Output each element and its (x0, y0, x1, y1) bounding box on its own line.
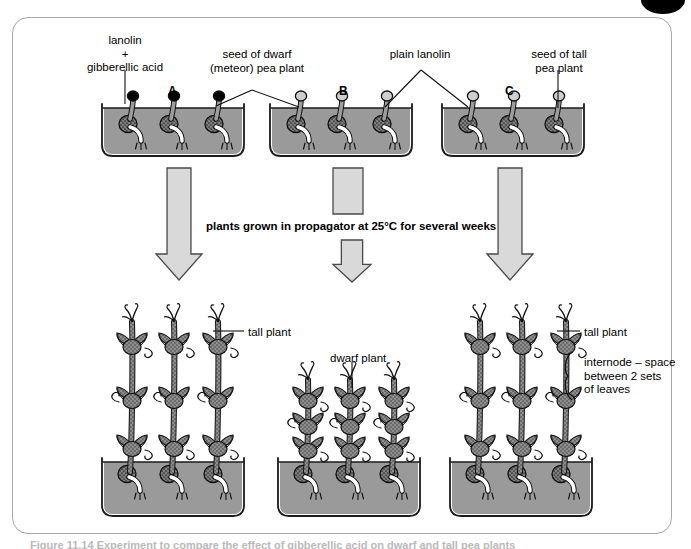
tray-A-contents (102, 91, 244, 156)
result-tray-A-plant-1-apex (122, 304, 138, 322)
result-tray-C-plant-2-tendril-3 (535, 348, 542, 357)
label-seed-of-dwarf-pea-plant: seed of dwarf (meteor) pea plant (196, 48, 318, 75)
tray-A-lanolin-cap-3 (213, 91, 224, 101)
leader-plain-lanolin-right (421, 70, 468, 107)
result-tray-B-plant-3-tendril-3 (407, 402, 414, 411)
result-tray-C-plant-1-apex (470, 304, 486, 322)
label-dwarf-plant: dwarf plant (330, 352, 404, 366)
result-tray-A-plant-3-apex (208, 304, 224, 322)
label-lanolin-gibberellic-acid: lanolin + gibberellic acid (64, 34, 186, 75)
label-internode-definition: internode – space between 2 sets of leav… (584, 356, 684, 397)
result-tray-B-plant-2-tendril-1 (363, 452, 370, 461)
leader-plain-lanolin-left (385, 70, 421, 107)
result-tray-B-plant-1-apex (298, 362, 314, 380)
leader-dwarf-seed-right (252, 90, 299, 107)
result-tray-C-plant-2-apex (512, 304, 528, 322)
result-tray-A-contents (102, 304, 244, 516)
result-tray-A-plant-2-tendril-2 (154, 393, 161, 402)
result-tray-C-plant-3-tendril-1 (579, 450, 586, 459)
tray-B-lanolin-cap-1 (295, 91, 306, 101)
arrow-left (156, 168, 202, 280)
result-tray-C-plant-3-apex (556, 304, 572, 322)
result-tray-A-plant-2-apex (164, 304, 180, 322)
result-tray-A-plant-3-tendril-2 (198, 393, 205, 402)
tray-letter-b: B (339, 84, 348, 98)
result-tray-B-plant-1-tendril-3 (321, 402, 328, 411)
result-tray-B-plant-1-tendril-2 (288, 419, 295, 428)
arrow-middle-upper (333, 168, 363, 214)
arrow-middle-lower (333, 240, 371, 282)
figure-caption: Figure 11.14 Experiment to compare the e… (30, 539, 515, 549)
result-tray-B-contents (278, 362, 420, 516)
label-seed-of-tall-pea-plant: seed of tall pea plant (513, 48, 605, 75)
result-tray-A-plant-2-tendril-3 (187, 348, 194, 357)
growth-conditions-text: plants grown in propagator at 25°C for s… (206, 220, 496, 232)
result-tray-C-plant-1-tendril-1 (493, 450, 500, 459)
result-tray-C-plant-2-tendril-2 (502, 393, 509, 402)
result-tray-A-plant-3-tendril-1 (231, 450, 238, 459)
label-tall-plant-right: tall plant (584, 326, 654, 340)
result-tray-C-plant-3-tendril-2 (546, 393, 553, 402)
result-tray-A-plant-1-tendril-2 (112, 393, 119, 402)
result-tray-B-plant-3-tendril-2 (374, 419, 381, 428)
diagram-artwork (0, 0, 691, 549)
result-tray-B-plant-1-tendril-1 (321, 452, 328, 461)
result-tray-C-plant-1-tendril-2 (460, 393, 467, 402)
result-tray-A-plant-2-tendril-1 (187, 450, 194, 459)
tray-B-lanolin-cap-3 (381, 91, 392, 101)
result-tray-B-plant-3-tendril-1 (407, 452, 414, 461)
result-tray-B-plant-2-tendril-3 (363, 402, 370, 411)
tray-C-contents (442, 91, 584, 156)
result-tray-A-plant-1-tendril-1 (145, 450, 152, 459)
tray-letter-c: C (505, 84, 514, 98)
result-tray-C-plant-1-tendril-3 (493, 348, 500, 357)
result-tray-C-plant-2-tendril-1 (535, 450, 542, 459)
figure-root: lanolin + gibberellic acidseed of dwarf … (0, 0, 691, 549)
label-plain-lanolin: plain lanolin (375, 48, 465, 62)
result-tray-C-contents (450, 304, 592, 516)
tray-C-lanolin-cap-3 (553, 91, 564, 101)
result-tray-B-plant-2-tendril-2 (330, 419, 337, 428)
tray-A-lanolin-cap-1 (127, 91, 138, 101)
label-tall-plant-left: tall plant (248, 326, 318, 340)
tray-letter-a: A (168, 84, 177, 98)
tray-C-lanolin-cap-1 (467, 91, 478, 101)
result-tray-A-plant-3-tendril-3 (231, 348, 238, 357)
result-tray-A-plant-1-tendril-3 (145, 348, 152, 357)
